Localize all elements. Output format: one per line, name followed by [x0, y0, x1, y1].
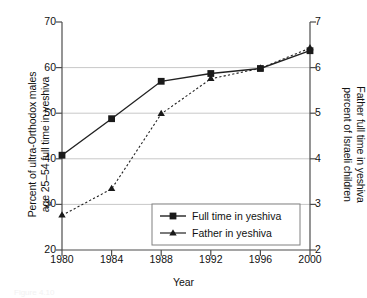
legend-label-father-in-yeshiva: Father in yeshiva [192, 227, 272, 239]
grid-lines [62, 68, 310, 205]
legend-label-full-time-in-yeshiva: Full time in yeshiva [192, 210, 281, 222]
plot-area: Full time in yeshiva Father in yeshiva [0, 0, 367, 298]
series-full-time-in-yeshiva [59, 47, 314, 158]
figure-caption: Figure 4.10 [14, 288, 54, 297]
chart-figure: Percent of ultra-Orthodox males age 25–5… [0, 0, 367, 298]
series-father-in-yeshiva [58, 44, 313, 218]
chart-legend: Full time in yeshiva Father in yeshiva [152, 204, 300, 245]
